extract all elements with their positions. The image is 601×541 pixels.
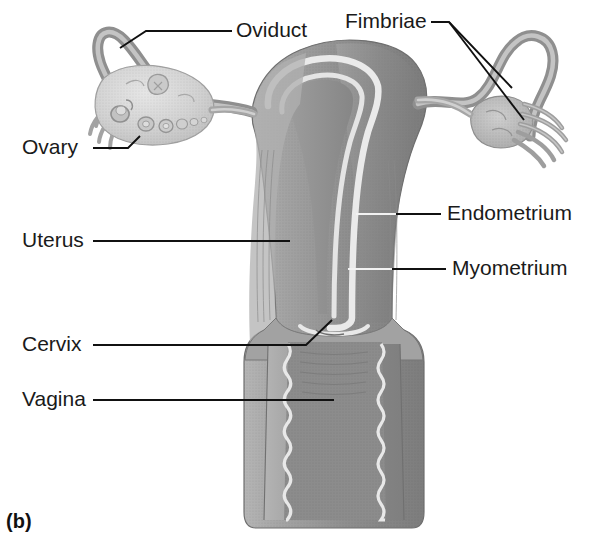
vaginal-lumen-texture xyxy=(284,342,386,520)
figure-panel: Oviduct Fimbriae Ovary Uterus Cervix Vag… xyxy=(0,0,601,541)
label-oviduct: Oviduct xyxy=(236,18,307,41)
label-cervix: Cervix xyxy=(22,332,82,355)
vagina xyxy=(264,342,404,520)
label-myometrium: Myometrium xyxy=(452,256,568,279)
label-endometrium: Endometrium xyxy=(447,201,572,224)
label-uterus: Uterus xyxy=(22,228,84,251)
label-fimbriae: Fimbriae xyxy=(345,9,427,32)
panel-label: (b) xyxy=(6,510,32,532)
label-ovary: Ovary xyxy=(22,135,79,158)
anatomical-diagram: Oviduct Fimbriae Ovary Uterus Cervix Vag… xyxy=(0,0,601,541)
label-vagina: Vagina xyxy=(22,387,86,410)
